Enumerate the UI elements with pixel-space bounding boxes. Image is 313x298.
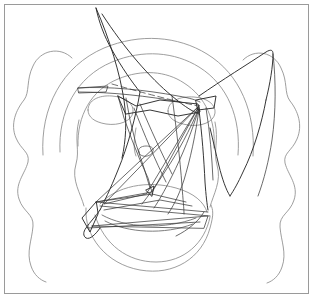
sketch-canvas <box>0 0 313 298</box>
canvas-background <box>0 0 313 298</box>
line-drawing-svg <box>0 0 313 298</box>
